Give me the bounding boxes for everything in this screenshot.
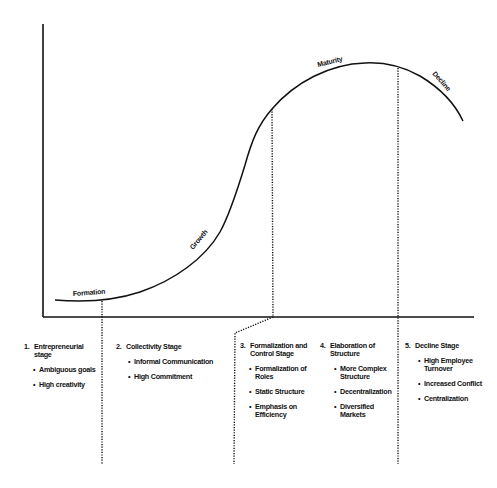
- stage-title: 5. Decline Stage: [405, 342, 485, 350]
- stage-4: 4. Elaboration of Structure More Complex…: [320, 342, 396, 419]
- curve-label-formation: Formation: [73, 288, 106, 297]
- life-cycle-curve: [55, 63, 463, 301]
- stage-bullet: Centralization: [418, 395, 485, 403]
- stage-bullet: High Employee Turnover: [418, 357, 485, 373]
- stage-bullet: Decentralization: [334, 388, 396, 396]
- stage-1: 1. Entrepreneurial stage Ambiguous goals…: [24, 343, 100, 389]
- curve-label-growth: Growth: [188, 228, 208, 250]
- stage-bullet: Emphasis on Efficiency: [249, 403, 308, 419]
- stage-bullet: High creativity: [33, 381, 100, 389]
- stage-bullet: Informal Communication: [128, 358, 231, 366]
- curve-label-decline: Decline: [431, 70, 452, 92]
- stage-bullet: Increased Conflict: [418, 380, 485, 388]
- stage-bullet: Formalization of Roles: [249, 365, 308, 381]
- stage-bullet: Ambiguous goals: [33, 366, 100, 374]
- stage-title: 3. Formalization and Control Stage: [240, 342, 308, 358]
- stage-title: 1. Entrepreneurial stage: [24, 343, 100, 359]
- stage-title: 2. Collectivity Stage: [116, 343, 231, 351]
- stage-title: 4. Elaboration of Structure: [320, 342, 396, 358]
- stage-2: 2. Collectivity Stage Informal Communica…: [116, 343, 231, 381]
- stage-5: 5. Decline Stage High Employee Turnover …: [405, 342, 485, 403]
- stage-3: 3. Formalization and Control Stage Forma…: [240, 342, 308, 419]
- stage-bullet: Diversified Markets: [334, 403, 396, 419]
- stage-bullet: More Complex Structure: [334, 365, 396, 381]
- stage-bullet: Static Structure: [249, 388, 308, 396]
- stage-bullet: High Commitment: [128, 373, 231, 381]
